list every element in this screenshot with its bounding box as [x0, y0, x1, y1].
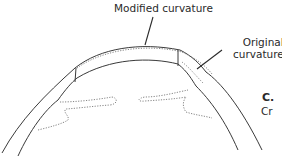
modified-curvature-arc [75, 47, 180, 68]
original-pointer [197, 50, 222, 69]
left-iris-dotted [38, 97, 116, 130]
modified-pointer [145, 17, 153, 45]
inner-cornea-top [77, 60, 178, 78]
outer-cornea-left [2, 68, 75, 153]
cornea-illustration [0, 0, 282, 156]
panel-letter: C. [262, 92, 274, 104]
modified-curvature-label: Modified curvature [114, 2, 213, 14]
inner-cornea-right [178, 64, 238, 150]
original-curvature-label: Original curvature [233, 36, 282, 60]
panel-caption: Cr [261, 105, 273, 117]
right-iris-dotted [139, 90, 212, 118]
original-curvature-dotted [77, 48, 212, 74]
corneal-curvature-diagram: Modified curvature Original curvature C.… [0, 0, 282, 156]
original-curvature-label-line2: curvature [233, 48, 282, 60]
left-incision [75, 68, 76, 82]
outer-cornea-right [180, 50, 262, 150]
original-curvature-label-line1: Original [233, 36, 282, 48]
